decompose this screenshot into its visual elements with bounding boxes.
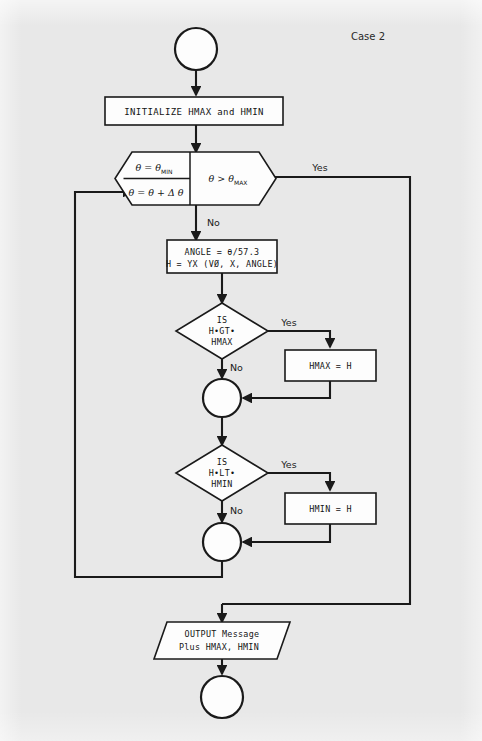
end-terminal <box>201 676 243 718</box>
edge-label-min-yes: Yes <box>280 459 296 470</box>
start-terminal <box>175 28 217 70</box>
decision-max-line-2: H•GT• <box>209 326 236 336</box>
edge-assign-max-to-junction <box>243 381 330 398</box>
compute-line-2: H = YX (VØ, X, ANGLE) <box>166 259 278 269</box>
output-line-1: OUTPUT Message <box>185 629 260 639</box>
loop-init-expr: θ = θ <box>136 162 162 173</box>
loop-increment-label: θ = θ + Δ θ <box>128 187 183 198</box>
case-caption: Case 2 <box>351 31 385 42</box>
output-line-2: Plus HMAX, HMIN <box>179 642 259 652</box>
assign-min-label: HMIN = H <box>309 504 352 514</box>
junction-max-connector <box>203 379 241 417</box>
decision-max-line-3: HMAX <box>211 337 232 347</box>
initialize-label: INITIALIZE HMAX and HMIN <box>124 107 264 117</box>
flowchart-canvas: INITIALIZE HMAX and HMIN θ = θMIN θ = θ … <box>0 0 482 741</box>
edge-decision-min-yes <box>268 473 330 490</box>
decision-min-line-3: HMIN <box>211 479 232 489</box>
loop-test-subscript: MAX <box>234 179 247 186</box>
edge-label-min-no: No <box>230 505 243 516</box>
edge-label-max-no: No <box>230 362 243 373</box>
edge-label-max-yes: Yes <box>280 317 296 328</box>
decision-min-line-2: H•LT• <box>209 468 236 478</box>
decision-min-line-1: IS <box>217 457 228 467</box>
decision-max-line-1: IS <box>217 315 228 325</box>
loop-test-expr: θ > θ <box>209 173 235 184</box>
edge-label-loop-no: No <box>207 217 220 228</box>
junction-min-connector <box>203 523 241 561</box>
assign-max-label: HMAX = H <box>309 361 352 371</box>
edge-assign-min-to-junction <box>243 524 330 542</box>
compute-line-1: ANGLE = θ/57.3 <box>185 247 260 257</box>
edge-decision-max-yes <box>268 331 330 347</box>
flowchart-page: INITIALIZE HMAX and HMIN θ = θMIN θ = θ … <box>0 0 482 741</box>
loop-init-subscript: MIN <box>161 168 172 175</box>
edge-label-loop-yes: Yes <box>311 162 327 173</box>
